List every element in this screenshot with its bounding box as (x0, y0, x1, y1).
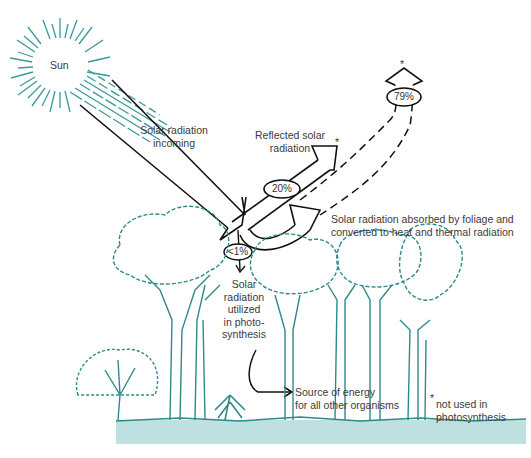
photo-line1: Solar (214, 278, 274, 291)
absorbed-line2: converted to heat and thermal radiation (331, 226, 514, 239)
footnote-line1: not used in (436, 398, 506, 411)
incoming-radiation-label: Solar radiation incoming (124, 124, 224, 149)
absorbed-line1: Solar radiation absorbed by foliage and (331, 213, 514, 226)
heat-percent: 79% (387, 91, 421, 102)
reflected-percent: 20% (264, 183, 300, 194)
footnote-line2: photosynthesis (436, 411, 506, 424)
photo-line3: utilized (214, 303, 274, 316)
footnote-asterisk: * (430, 392, 434, 405)
ground-strip (116, 420, 526, 444)
reflected-line1: Reflected solar (245, 129, 335, 142)
incoming-line2: incoming (124, 137, 224, 150)
energy-line1: Source of energy (295, 386, 399, 399)
energy-source-label: Source of energy for all other organisms (295, 386, 399, 411)
footnote-label: not used in photosynthesis (436, 398, 506, 423)
sun-label: Sun (50, 59, 69, 72)
photo-line5: synthesis (214, 328, 274, 341)
photosynthesis-percent: <1% (224, 246, 252, 257)
heat-asterisk: * (400, 58, 404, 71)
reflected-asterisk: * (335, 136, 339, 149)
absorbed-radiation-label: Solar radiation absorbed by foliage and … (331, 213, 514, 238)
photo-line2: radiation (214, 291, 274, 304)
incoming-radiation-arrow (80, 80, 246, 240)
photosynthesis-label: Solar radiation utilized in photo- synth… (214, 278, 274, 341)
incoming-line1: Solar radiation (124, 124, 224, 137)
reflected-radiation-label: Reflected solar radiation (245, 129, 335, 154)
reflected-line2: radiation (245, 142, 335, 155)
photo-line4: in photo- (214, 316, 274, 329)
energy-line2: for all other organisms (295, 399, 399, 412)
